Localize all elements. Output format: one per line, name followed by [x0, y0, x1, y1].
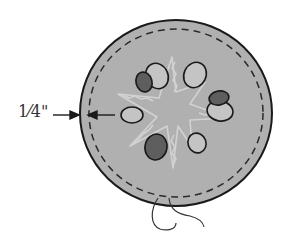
- seam-allowance-label: 1⁄4": [18, 102, 48, 121]
- arrow-right-icon: [70, 111, 79, 119]
- fabric-circle: [80, 20, 272, 206]
- motif-left: [121, 107, 143, 123]
- yoyo-diagram: 1⁄4": [0, 0, 298, 239]
